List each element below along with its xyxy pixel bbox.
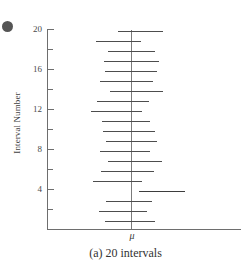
interval-bar [100, 81, 153, 82]
y-axis-minor-tick [48, 169, 53, 170]
interval-bar [105, 71, 157, 72]
interval-bar [108, 51, 155, 52]
y-axis-major-tick [48, 69, 54, 70]
interval-bar [118, 31, 163, 32]
interval-bar [100, 151, 150, 152]
confidence-interval-figure: 48121620 Interval Number μ (a) 20 interv… [0, 0, 251, 274]
figure-caption: (a) 20 intervals [0, 246, 251, 260]
y-axis-minor-tick [48, 209, 53, 210]
mu-reference-line [131, 30, 132, 229]
interval-bar [110, 91, 163, 92]
y-axis-title: Interval Number [12, 73, 22, 173]
interval-bar [108, 161, 162, 162]
interval-bar [104, 61, 159, 62]
interval-bar [91, 111, 142, 112]
interval-bar [93, 181, 142, 182]
interval-bar [101, 171, 154, 172]
y-axis-major-tick [48, 109, 54, 110]
interval-bar [97, 101, 149, 102]
interval-bar [105, 221, 155, 222]
interval-bar [106, 141, 157, 142]
interval-bar [99, 211, 147, 212]
interval-bar [102, 121, 150, 122]
plot-area: 48121620 Interval Number μ [0, 0, 251, 240]
interval-bar [106, 201, 152, 202]
y-axis-minor-tick [48, 89, 53, 90]
y-axis-tick-label: 20 [14, 25, 42, 34]
y-axis-major-tick [48, 29, 54, 30]
x-axis-line [47, 229, 241, 230]
interval-bar [96, 41, 141, 42]
interval-bar [103, 131, 155, 132]
y-axis-minor-tick [48, 49, 53, 50]
y-axis-major-tick [48, 189, 54, 190]
y-axis-major-tick [48, 149, 54, 150]
y-axis-tick-label: 4 [14, 185, 42, 194]
mu-label: μ [124, 230, 140, 242]
y-axis-minor-tick [48, 129, 53, 130]
interval-bar [139, 191, 185, 192]
